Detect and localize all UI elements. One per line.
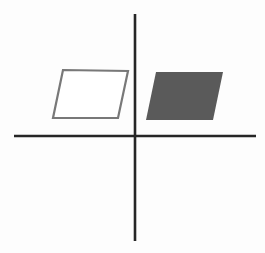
figure-canvas (0, 0, 265, 253)
outlined-parallelogram[interactable] (53, 70, 128, 118)
filled-parallelogram[interactable] (146, 72, 223, 120)
geometry-diagram (0, 0, 265, 253)
diagram-background (0, 0, 265, 253)
